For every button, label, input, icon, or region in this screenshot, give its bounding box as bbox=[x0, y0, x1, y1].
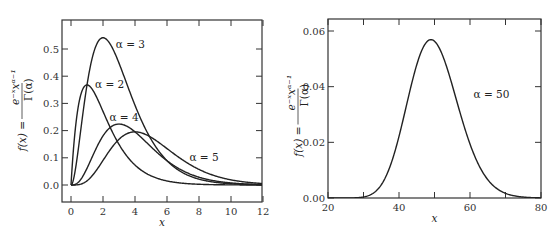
y-tick-label: 0.06 bbox=[303, 26, 325, 37]
annotation-alpha-2: α = 2 bbox=[95, 78, 124, 90]
plot-frame bbox=[328, 19, 541, 198]
y-label-lhs: f(x) = bbox=[16, 121, 28, 152]
curve-alpha-2 bbox=[71, 85, 263, 185]
x-tick-label: 4 bbox=[132, 206, 138, 217]
y-label-numerator: e⁻ˣxᵅ⁻¹ bbox=[9, 69, 21, 105]
x-tick-label: 40 bbox=[393, 202, 406, 213]
y-tick-label: 0.00 bbox=[303, 193, 325, 204]
y-label-numerator: e⁻ˣxᵅ⁻¹ bbox=[285, 75, 297, 111]
y-tick-label: 0.2 bbox=[43, 125, 59, 136]
curve-alpha-4 bbox=[71, 124, 263, 185]
x-axis-label: x bbox=[159, 216, 165, 228]
figure: 0246810120.00.10.20.30.40.5xf(x) =e⁻ˣxᵅ⁻… bbox=[0, 0, 557, 229]
y-tick-label: 0.3 bbox=[43, 98, 59, 109]
y-tick-label: 0.5 bbox=[43, 44, 59, 55]
curve-alpha-3 bbox=[71, 38, 263, 185]
left-chart: 0246810120.00.10.20.30.40.5xf(x) =e⁻ˣxᵅ⁻… bbox=[9, 20, 269, 228]
y-label-lhs: f(x) = bbox=[292, 127, 304, 158]
y-label-denominator: Γ(α) bbox=[22, 78, 34, 101]
right-chart: 204060800.000.020.040.06xf(x) =e⁻ˣxᵅ⁻¹Γ(… bbox=[285, 19, 547, 224]
x-tick-label: 60 bbox=[464, 202, 477, 213]
curve-alpha-5 bbox=[71, 132, 263, 185]
y-tick-label: 0.02 bbox=[303, 137, 325, 148]
annotation-alpha-50: α = 50 bbox=[474, 88, 510, 100]
y-tick-label: 0.1 bbox=[43, 152, 59, 163]
plot-frame bbox=[62, 20, 262, 202]
y-tick-label: 0.4 bbox=[43, 71, 59, 82]
annotation-alpha-4: α = 4 bbox=[109, 111, 139, 123]
x-tick-label: 2 bbox=[100, 206, 106, 217]
x-tick-label: 0 bbox=[68, 206, 74, 217]
x-tick-label: 80 bbox=[535, 202, 548, 213]
y-label-denominator: Γ(α) bbox=[298, 84, 310, 107]
curve-alpha-50 bbox=[328, 40, 541, 198]
y-tick-label: 0.0 bbox=[43, 180, 59, 191]
annotation-alpha-5: α = 5 bbox=[189, 151, 218, 163]
x-tick-label: 10 bbox=[225, 206, 238, 217]
x-tick-label: 20 bbox=[322, 202, 335, 213]
y-axis-label: f(x) =e⁻ˣxᵅ⁻¹Γ(α) bbox=[9, 69, 34, 152]
x-tick-label: 12 bbox=[257, 206, 270, 217]
x-axis-label: x bbox=[432, 212, 438, 224]
annotation-alpha-3: α = 3 bbox=[116, 38, 145, 50]
x-tick-label: 8 bbox=[196, 206, 202, 217]
